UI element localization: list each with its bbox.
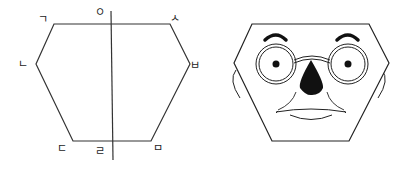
- vertex-label-top-right: ㅅ: [170, 13, 180, 24]
- hexagon-outline: [0, 0, 206, 169]
- vertex-label-bottom-right: ㅁ: [153, 143, 163, 154]
- right-eye-icon: [345, 61, 352, 68]
- vertex-label-mid-right: ㅂ: [190, 60, 200, 71]
- vertical-axis-line: [111, 11, 113, 160]
- vertex-label-bottom-center: ㄹ: [95, 146, 105, 157]
- vertex-label-top-center: ㅇ: [95, 7, 105, 18]
- left-eye-icon: [273, 61, 280, 68]
- hexagon-diagram-panel: ㄱ ㅇ ㅅ ㄴ ㅂ ㄷ ㄹ ㅁ: [0, 0, 206, 169]
- vertex-label-top-left: ㄱ: [38, 14, 48, 25]
- vertex-label-mid-left: ㄴ: [18, 59, 28, 70]
- hexagon-face: [206, 0, 412, 169]
- vertex-label-bottom-left: ㄷ: [57, 143, 67, 154]
- face-diagram-panel: [206, 0, 412, 169]
